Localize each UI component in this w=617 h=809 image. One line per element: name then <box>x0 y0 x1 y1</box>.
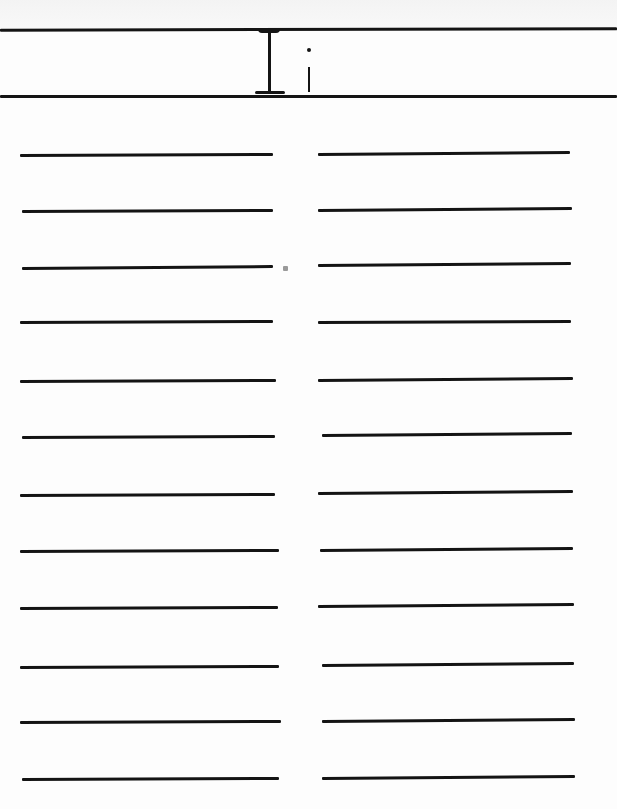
writing-line <box>318 377 573 382</box>
writing-line <box>20 379 276 383</box>
lowercase-letter-i: i <box>305 29 315 95</box>
writing-line <box>318 207 572 212</box>
writing-line <box>22 777 279 781</box>
writing-line <box>318 320 571 324</box>
writing-line <box>20 320 273 324</box>
writing-line <box>20 153 273 157</box>
writing-line <box>20 665 279 669</box>
writing-line <box>318 151 570 156</box>
writing-line <box>322 775 575 780</box>
writing-line <box>20 493 275 497</box>
writing-line <box>322 718 575 723</box>
header-bottom-rule <box>0 95 617 98</box>
writing-line <box>318 603 574 608</box>
writing-line <box>22 209 273 213</box>
scan-bleed-through <box>0 0 617 28</box>
writing-line <box>322 432 572 437</box>
writing-line <box>20 549 279 553</box>
writing-line <box>320 547 573 552</box>
writing-line <box>318 490 573 495</box>
writing-line <box>20 606 278 610</box>
uppercase-letter-i: I <box>248 29 288 95</box>
writing-line <box>20 720 281 724</box>
writing-line <box>318 262 571 267</box>
writing-line <box>22 265 273 270</box>
writing-line <box>322 662 574 667</box>
worksheet-page: I i I i <box>0 0 617 809</box>
scan-speck <box>283 266 288 271</box>
writing-line <box>22 435 275 439</box>
letter-heading: I i I i <box>240 29 360 95</box>
